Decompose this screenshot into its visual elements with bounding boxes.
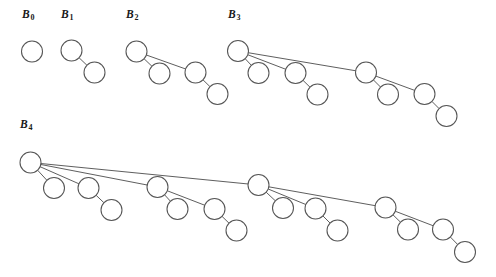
tree-node bbox=[433, 219, 454, 240]
tree-node bbox=[285, 63, 306, 84]
tree-edge bbox=[303, 80, 310, 87]
tree-edge bbox=[203, 80, 210, 87]
tree-label-subscript: 2 bbox=[135, 13, 139, 22]
tree-edge bbox=[266, 192, 275, 201]
tree-edge bbox=[373, 80, 380, 87]
nodes-layer bbox=[20, 40, 476, 263]
tree-edge bbox=[144, 59, 152, 66]
tree-node bbox=[78, 178, 99, 199]
tree-node bbox=[414, 84, 435, 105]
tree-node bbox=[307, 84, 328, 105]
tree-edge bbox=[96, 195, 104, 202]
tree-node bbox=[356, 62, 377, 83]
tree-label-subscript: 0 bbox=[31, 13, 35, 22]
tree-label-subscript: 3 bbox=[237, 13, 241, 22]
tree-edge bbox=[432, 101, 439, 108]
tree-node bbox=[398, 219, 419, 240]
tree-node bbox=[22, 41, 43, 62]
tree-node bbox=[273, 198, 294, 219]
tree-edge bbox=[393, 215, 400, 222]
tree-node bbox=[84, 62, 105, 83]
tree-node bbox=[126, 41, 147, 62]
tree-node bbox=[248, 175, 269, 196]
tree-edge bbox=[165, 195, 171, 201]
tree-edge bbox=[79, 58, 87, 65]
label-b1: B1 bbox=[61, 8, 74, 22]
tree-label-base: B bbox=[20, 118, 28, 130]
tree-label-subscript: 4 bbox=[29, 123, 33, 132]
tree-edge bbox=[222, 216, 229, 223]
tree-node bbox=[226, 220, 247, 241]
tree-label-base: B bbox=[228, 8, 236, 20]
tree-node bbox=[149, 63, 170, 84]
tree-node bbox=[228, 41, 249, 62]
tree-diagram-canvas bbox=[0, 0, 496, 277]
tree-node bbox=[61, 40, 82, 61]
tree-node bbox=[375, 197, 396, 218]
tree-node bbox=[378, 84, 399, 105]
label-b0: B0 bbox=[22, 8, 35, 22]
tree-node bbox=[455, 242, 476, 263]
tree-label-subscript: 1 bbox=[70, 13, 74, 22]
tree-node bbox=[207, 84, 228, 105]
tree-node bbox=[327, 220, 348, 241]
tree-node bbox=[185, 62, 206, 83]
tree-node bbox=[204, 199, 225, 220]
label-b4: B4 bbox=[20, 118, 33, 132]
label-b2: B2 bbox=[126, 8, 139, 22]
tree-edge bbox=[245, 59, 251, 66]
tree-edge bbox=[38, 170, 47, 180]
binomial-trees-figure: B0B1B2B3B4 bbox=[0, 0, 496, 277]
tree-node bbox=[436, 106, 457, 127]
tree-edge bbox=[450, 237, 457, 244]
tree-edge bbox=[323, 216, 330, 223]
tree-node bbox=[101, 200, 122, 221]
tree-label-base: B bbox=[126, 8, 134, 20]
label-b3: B3 bbox=[228, 8, 241, 22]
tree-node bbox=[167, 199, 188, 220]
tree-node bbox=[44, 178, 65, 199]
tree-node bbox=[305, 198, 326, 219]
tree-node bbox=[248, 63, 269, 84]
tree-label-base: B bbox=[61, 8, 69, 20]
tree-label-base: B bbox=[22, 8, 30, 20]
tree-node bbox=[20, 152, 41, 173]
tree-node bbox=[147, 177, 168, 198]
